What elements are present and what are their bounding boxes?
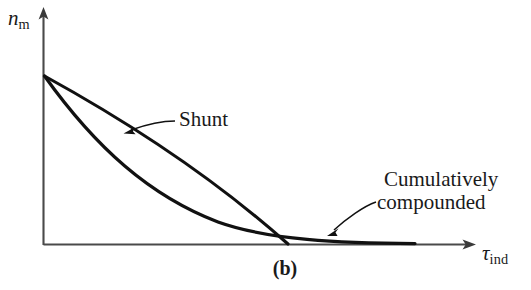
figure-container: nm τind Shunt Cumulatively compounded (b… bbox=[0, 0, 531, 290]
cumulatively-compounded-annotation-label: Cumulatively compounded bbox=[377, 168, 498, 214]
cumulatively-compounded-curve bbox=[45, 76, 416, 244]
figure-caption: (b) bbox=[249, 257, 321, 279]
x-axis-symbol: τ bbox=[482, 241, 490, 265]
cumulative-leader-line bbox=[334, 202, 376, 230]
cumulative-leader bbox=[327, 202, 376, 236]
shunt-annotation-label: Shunt bbox=[179, 108, 228, 131]
x-axis-subscript: ind bbox=[490, 251, 509, 267]
cumulative-label-line-1: Cumulatively bbox=[377, 168, 498, 191]
y-axis bbox=[39, 7, 49, 245]
y-axis-label: nm bbox=[8, 8, 30, 31]
y-axis-symbol: n bbox=[8, 6, 19, 30]
shunt-leader-arrowhead bbox=[124, 128, 136, 135]
x-axis-label: τind bbox=[482, 243, 508, 266]
shunt-curve bbox=[45, 76, 289, 244]
cumulative-label-line-2: compounded bbox=[377, 191, 498, 214]
torque-speed-characteristic-plot bbox=[0, 0, 531, 290]
y-axis-subscript: m bbox=[19, 16, 30, 32]
shunt-leader-line bbox=[131, 121, 175, 130]
cumulative-leader-arrowhead bbox=[327, 228, 339, 236]
